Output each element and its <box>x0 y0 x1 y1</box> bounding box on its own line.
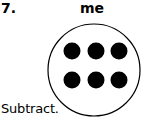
enclosing-circle <box>48 24 140 116</box>
dot-group <box>64 43 128 89</box>
dot <box>111 72 128 89</box>
dot <box>88 43 105 60</box>
dot <box>64 43 81 60</box>
dot <box>111 43 128 60</box>
instruction-text: Subtract. <box>1 101 59 117</box>
dot <box>88 72 105 89</box>
dot <box>64 72 81 89</box>
